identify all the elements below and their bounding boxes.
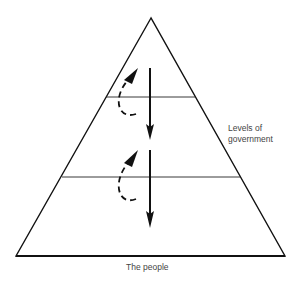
down-arrow-icon: [146, 68, 154, 140]
dashed-up-arrow-icon: [119, 150, 138, 200]
levels-of-government-label: Levels of government: [228, 123, 273, 145]
label-line-1: Levels of: [228, 123, 273, 134]
label-line-2: government: [228, 134, 273, 145]
down-arrow-icon: [146, 150, 154, 228]
dashed-up-arrow-icon: [119, 68, 138, 115]
the-people-label: The people: [126, 262, 169, 273]
